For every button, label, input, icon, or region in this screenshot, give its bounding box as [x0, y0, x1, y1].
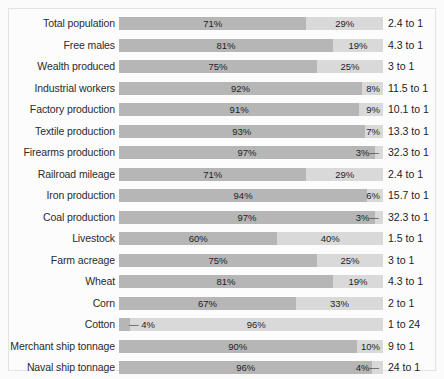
row-category-label: Corn	[9, 293, 115, 315]
row-category-label: Factory production	[9, 99, 115, 121]
row-ratio-label: 2 to 1	[388, 293, 414, 315]
stacked-bar: 71%29%	[119, 17, 383, 30]
row-ratio-label: 1 to 24	[388, 314, 420, 336]
bar-value-south: 33%	[296, 297, 383, 310]
stacked-bar: 97%3%—	[119, 211, 383, 224]
chart-row: Railroad mileage71%29%2.4 to 1	[9, 164, 437, 186]
bar-value-south: 9%	[347, 103, 380, 116]
row-ratio-label: 4.3 to 1	[388, 35, 423, 57]
bar-value-north: 94%	[119, 189, 367, 202]
row-ratio-label: 11.5 to 1	[388, 78, 428, 100]
bar-value-south: 29%	[306, 17, 383, 30]
row-ratio-label: 15.7 to 1	[388, 185, 429, 207]
bar-value-south: 7%	[347, 125, 380, 138]
stacked-bar: 97%3%—	[119, 146, 383, 159]
bar-value-south: 25%	[317, 60, 383, 73]
stacked-bar: 71%29%	[119, 168, 383, 181]
row-ratio-label: 2.4 to 1	[388, 164, 423, 186]
row-ratio-label: 2.4 to 1	[388, 13, 423, 35]
row-category-label: Industrial workers	[9, 78, 115, 100]
row-ratio-label: 9 to 1	[388, 336, 414, 358]
bar-value-north: 97%	[119, 211, 375, 224]
chart-row: Merchant ship tonnage90%10%9 to 1	[9, 336, 437, 358]
row-ratio-label: 32.3 to 1	[388, 207, 429, 229]
stacked-bar: 75%25%	[119, 60, 383, 73]
chart-row: Livestock60%40%1.5 to 1	[9, 228, 437, 250]
chart-rows: Total population71%29%2.4 to 1Free males…	[9, 13, 437, 379]
chart-row: Total population71%29%2.4 to 1	[9, 13, 437, 35]
row-category-label: Firearms production	[9, 142, 115, 164]
bar-value-south: 96%	[130, 318, 383, 331]
bar-value-north: 92%	[119, 82, 362, 95]
stacked-bar: 67%33%	[119, 297, 383, 310]
stacked-bar: 90%10%	[119, 340, 383, 353]
stacked-bar: — 4%96%	[119, 318, 383, 331]
stacked-bar: 91%9%	[119, 103, 383, 116]
stacked-bar: 93%7%	[119, 125, 383, 138]
stacked-bar: 92%8%	[119, 82, 383, 95]
chart-row: Textile production93%7%13.3 to 1	[9, 121, 437, 143]
bar-value-north: 75%	[119, 60, 317, 73]
row-category-label: Total population	[9, 13, 115, 35]
bar-value-north: 90%	[119, 340, 357, 353]
stacked-bar: 81%19%	[119, 39, 383, 52]
row-category-label: Wealth produced	[9, 56, 115, 78]
bar-value-south: 10%	[347, 340, 380, 353]
bar-value-north: 67%	[119, 297, 296, 310]
bar-value-north: 96%	[119, 361, 372, 374]
row-ratio-label: 3 to 1	[388, 56, 414, 78]
row-category-label: Free males	[9, 35, 115, 57]
stacked-bar: 81%19%	[119, 275, 383, 288]
row-category-label: Railroad mileage	[9, 164, 115, 186]
row-category-label: Wheat	[9, 271, 115, 293]
stacked-bar: 94%6%	[119, 189, 383, 202]
row-category-label: Cotton	[9, 314, 115, 336]
bar-value-south: 6%	[347, 189, 380, 202]
row-category-label: Iron production	[9, 185, 115, 207]
bar-value-north: 71%	[119, 168, 306, 181]
row-ratio-label: 3 to 1	[388, 250, 414, 272]
bar-value-north: 60%	[119, 232, 277, 245]
row-category-label: Livestock	[9, 228, 115, 250]
stacked-bar: 60%40%	[119, 232, 383, 245]
chart-row: Iron production94%6%15.7 to 1	[9, 185, 437, 207]
bar-value-north: 91%	[119, 103, 359, 116]
bar-value-south: 8%	[347, 82, 380, 95]
row-category-label: Farm acreage	[9, 250, 115, 272]
chart-row: Naval ship tonnage96%4%—24 to 1	[9, 357, 437, 379]
row-ratio-label: 4.3 to 1	[388, 271, 423, 293]
row-ratio-label: 13.3 to 1	[388, 121, 429, 143]
row-category-label: Coal production	[9, 207, 115, 229]
chart-row: Wealth produced75%25%3 to 1	[9, 56, 437, 78]
bar-value-south: 29%	[306, 168, 383, 181]
bar-value-north: 75%	[119, 254, 317, 267]
row-category-label: Naval ship tonnage	[9, 357, 115, 379]
chart-row: Firearms production97%3%—32.3 to 1	[9, 142, 437, 164]
bar-value-south: 3%—	[339, 146, 379, 159]
bar-value-north: 97%	[119, 146, 375, 159]
chart-row: Coal production97%3%—32.3 to 1	[9, 207, 437, 229]
row-ratio-label: 32.3 to 1	[388, 142, 429, 164]
bar-value-north: 93%	[119, 125, 365, 138]
bar-value-north: 81%	[119, 275, 333, 288]
chart-row: Farm acreage75%25%3 to 1	[9, 250, 437, 272]
bar-value-south: 4%—	[339, 361, 379, 374]
row-ratio-label: 1.5 to 1	[388, 228, 423, 250]
bar-value-south: 19%	[333, 39, 383, 52]
row-ratio-label: 10.1 to 1	[388, 99, 429, 121]
row-category-label: Merchant ship tonnage	[9, 336, 115, 358]
stacked-bar: 75%25%	[119, 254, 383, 267]
chart-row: Cotton— 4%96%1 to 24	[9, 314, 437, 336]
row-ratio-label: 24 to 1	[388, 357, 420, 379]
bar-value-south: 3%—	[339, 211, 379, 224]
bar-value-north: 71%	[119, 17, 306, 30]
chart-row: Free males81%19%4.3 to 1	[9, 35, 437, 57]
bar-segment-north	[119, 318, 130, 331]
bar-value-south: 19%	[333, 275, 383, 288]
chart-row: Factory production91%9%10.1 to 1	[9, 99, 437, 121]
chart-panel: Total population71%29%2.4 to 1Free males…	[8, 8, 436, 371]
chart-row: Corn67%33%2 to 1	[9, 293, 437, 315]
bar-value-south: 40%	[277, 232, 383, 245]
chart-row: Wheat81%19%4.3 to 1	[9, 271, 437, 293]
bar-value-north: 81%	[119, 39, 333, 52]
